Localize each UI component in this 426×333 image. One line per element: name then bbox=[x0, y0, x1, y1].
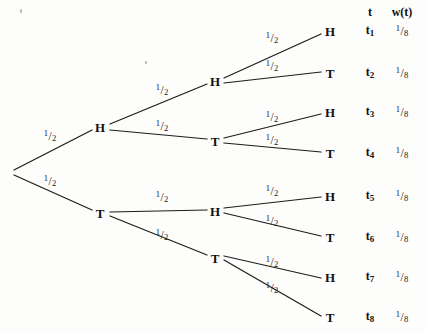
tree-edge-n-HH-to-leaf-2 bbox=[224, 72, 321, 83]
outcome-label-t3: t3 bbox=[366, 105, 375, 120]
tree-node-leaf-5: H bbox=[325, 190, 335, 203]
tree-node-leaf-3: H bbox=[325, 106, 335, 119]
branch-weight-n-T-to-n-TT: 1/2 bbox=[156, 228, 168, 242]
branch-weight-n-T-to-n-TH: 1/2 bbox=[156, 190, 168, 204]
branch-weight-n-HT-to-leaf-3: 1/2 bbox=[266, 110, 278, 124]
outcome-weight-t4: 1/8 bbox=[396, 146, 408, 160]
outcome-label-t8: t8 bbox=[366, 310, 375, 325]
branch-weight-root-to-n-T: 1/2 bbox=[44, 174, 56, 188]
branch-weight-n-HH-to-leaf-1: 1/2 bbox=[266, 31, 278, 45]
outcome-weight-t6: 1/8 bbox=[396, 230, 408, 244]
tree-node-leaf-6: T bbox=[326, 231, 335, 244]
probability-tree-diagram: HTHTHTHTHTHTHT 1/21/21/21/21/21/21/21/21… bbox=[0, 0, 426, 333]
tree-edge-n-T-to-n-TH bbox=[110, 210, 207, 212]
branch-weight-n-HT-to-leaf-4: 1/2 bbox=[266, 133, 278, 147]
tree-node-n-HT: T bbox=[211, 135, 220, 148]
outcome-label-t7: t7 bbox=[366, 270, 375, 285]
tree-node-n-H: H bbox=[95, 121, 105, 134]
tree-edge-layer bbox=[0, 0, 426, 333]
branch-weight-n-TT-to-leaf-7: 1/2 bbox=[266, 255, 278, 269]
branch-weight-n-H-to-n-HH: 1/2 bbox=[156, 83, 168, 97]
scan-speck-2 bbox=[145, 61, 147, 64]
tree-node-leaf-2: T bbox=[326, 67, 335, 80]
tree-node-leaf-4: T bbox=[326, 147, 335, 160]
outcome-weight-t3: 1/8 bbox=[396, 105, 408, 119]
branch-weight-root-to-n-H: 1/2 bbox=[44, 129, 56, 143]
tree-node-n-TH: H bbox=[210, 205, 220, 218]
outcome-weight-t8: 1/8 bbox=[396, 310, 408, 324]
outcome-weight-t2: 1/8 bbox=[396, 66, 408, 80]
outcome-label-t4: t4 bbox=[366, 146, 375, 161]
branch-weight-n-TH-to-leaf-6: 1/2 bbox=[266, 214, 278, 228]
outcome-label-t1: t1 bbox=[366, 24, 375, 39]
branch-weight-n-TT-to-leaf-8: 1/2 bbox=[266, 281, 278, 295]
column-header-outcome: t bbox=[368, 6, 372, 18]
column-header-weight: w(t) bbox=[392, 6, 413, 18]
outcome-label-t6: t6 bbox=[366, 230, 375, 245]
branch-weight-n-HH-to-leaf-2: 1/2 bbox=[266, 59, 278, 73]
scan-speck-1 bbox=[20, 9, 22, 13]
outcome-weight-t1: 1/8 bbox=[396, 24, 408, 38]
outcome-weight-t5: 1/8 bbox=[396, 189, 408, 203]
outcome-label-t2: t2 bbox=[366, 66, 375, 81]
tree-node-leaf-7: H bbox=[325, 271, 335, 284]
outcome-label-t5: t5 bbox=[366, 189, 375, 204]
tree-node-n-TT: T bbox=[211, 252, 220, 265]
tree-node-leaf-1: H bbox=[325, 25, 335, 38]
tree-edge-n-TH-to-leaf-5 bbox=[224, 197, 321, 208]
tree-node-n-T: T bbox=[96, 207, 105, 220]
branch-weight-n-H-to-n-HT: 1/2 bbox=[156, 119, 168, 133]
tree-node-n-HH: H bbox=[210, 75, 220, 88]
tree-node-leaf-8: T bbox=[326, 311, 335, 324]
outcome-weight-t7: 1/8 bbox=[396, 270, 408, 284]
branch-weight-n-TH-to-leaf-5: 1/2 bbox=[266, 184, 278, 198]
